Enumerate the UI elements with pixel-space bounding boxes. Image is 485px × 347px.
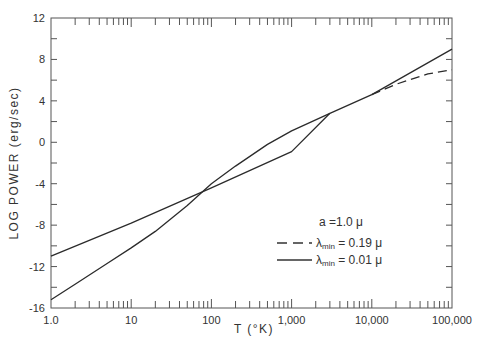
- legend: a =1.0 μ λmin = 0.19 μ λmin = 0.01 μ: [277, 215, 382, 268]
- data-series: [51, 49, 452, 300]
- y-tick-label: 4: [39, 95, 45, 107]
- legend-entry-dashed: λmin = 0.19 μ: [277, 236, 382, 251]
- legend-entry-solid: λmin = 0.01 μ: [277, 253, 382, 268]
- series-line-1: [51, 113, 330, 299]
- legend-label-dashed: λmin = 0.19 μ: [316, 236, 382, 251]
- series-line-0: [51, 49, 452, 256]
- x-axis-title: T (°K): [234, 322, 274, 336]
- x-tick-label: 1.0: [43, 314, 58, 326]
- series-line-2: [372, 70, 452, 95]
- y-tick-label: -16: [29, 302, 45, 314]
- legend-label-solid: λmin = 0.01 μ: [316, 253, 382, 268]
- legend-header: a =1.0 μ: [319, 215, 363, 229]
- y-axis-tick-labels: 12840-4-8-12-16: [29, 12, 45, 314]
- y-tick-label: 8: [39, 53, 45, 65]
- x-tick-label: 10,000: [355, 314, 389, 326]
- x-tick-label: 100,000: [432, 314, 472, 326]
- x-tick-label: 1,000: [278, 314, 306, 326]
- plot-frame: [51, 18, 452, 308]
- y-axis-title: LOG POWER (erg/sec): [7, 86, 21, 239]
- y-axis-ticks: [51, 39, 452, 288]
- y-tick-label: 0: [39, 136, 45, 148]
- y-tick-label: -4: [35, 178, 45, 190]
- chart-figure: 1.0101001,00010,000100,000 12840-4-8-12-…: [0, 0, 485, 347]
- y-tick-label: 12: [33, 12, 45, 24]
- y-tick-label: -12: [29, 261, 45, 273]
- y-tick-label: -8: [35, 219, 45, 231]
- x-tick-label: 100: [202, 314, 220, 326]
- plot-border: [51, 18, 452, 308]
- x-tick-label: 10: [125, 314, 137, 326]
- x-axis-ticks: [75, 18, 448, 308]
